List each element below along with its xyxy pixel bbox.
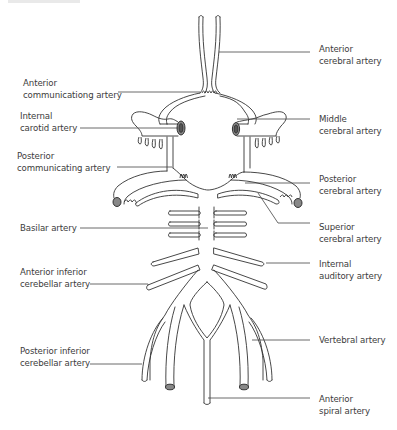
label-line: spiral artery xyxy=(319,405,370,417)
label-anterior-communicating-artery: Anterior communicationg artery xyxy=(23,77,122,102)
label-line: Anterior xyxy=(319,43,382,55)
label-line: cerebral artery xyxy=(319,233,382,245)
label-superior-cerebral-artery: Superior cerebral artery xyxy=(319,221,382,246)
label-line: Superior xyxy=(319,221,382,233)
label-line: Middle xyxy=(319,113,382,125)
label-line: Vertebral artery xyxy=(319,334,386,346)
label-line: cerebellar artery xyxy=(20,278,90,290)
vertebral-system xyxy=(142,270,272,405)
label-line: cerebellar artery xyxy=(20,357,90,369)
label-line: Anterior xyxy=(319,393,370,405)
label-anterior-inferior-cerebellar-artery: Anterior inferior cerebellar artery xyxy=(20,266,90,291)
label-anterior-spiral-artery: Anterior spiral artery xyxy=(319,393,370,418)
label-internal-carotid-artery: Internal carotid artery xyxy=(20,110,77,135)
label-line: Posterior xyxy=(319,173,382,185)
basilar-artery-branches xyxy=(147,207,267,290)
label-line: cerebral artery xyxy=(319,55,382,67)
label-line: auditory artery xyxy=(319,270,382,282)
anterior-cerebral-arteries xyxy=(199,16,220,94)
label-line: cerebral artery xyxy=(319,185,382,197)
label-line: communicating artery xyxy=(17,162,110,174)
label-posterior-cerebral-artery: Posterior cerebral artery xyxy=(319,173,382,198)
label-line: Internal xyxy=(20,110,77,122)
label-anterior-cerebral-artery: Anterior cerebral artery xyxy=(319,43,382,68)
label-posterior-communicating-artery: Posterior communicating artery xyxy=(17,150,110,175)
label-line: carotid artery xyxy=(20,122,77,134)
label-middle-cerebral-artery: Middle cerebral artery xyxy=(319,113,382,138)
label-posterior-inferior-cerebellar-artery: Posterior inferior cerebellar artery xyxy=(20,345,90,370)
label-vertebral-artery: Vertebral artery xyxy=(319,334,386,346)
label-basilar-artery: Basilar artery xyxy=(20,222,77,234)
label-line: communicationg artery xyxy=(23,89,122,101)
left-internal-carotid xyxy=(132,112,185,171)
label-line: Anterior xyxy=(23,77,122,89)
label-internal-auditory-artery: Internal auditory artery xyxy=(319,258,382,283)
label-line: cerebral artery xyxy=(319,125,382,137)
right-internal-carotid xyxy=(232,112,286,172)
label-line: Basilar artery xyxy=(20,222,77,234)
posterior-junction xyxy=(113,168,302,208)
label-line: Posterior inferior xyxy=(20,345,90,357)
label-line: Posterior xyxy=(17,150,110,162)
label-line: Anterior inferior xyxy=(20,266,90,278)
label-line: Internal xyxy=(319,258,382,270)
